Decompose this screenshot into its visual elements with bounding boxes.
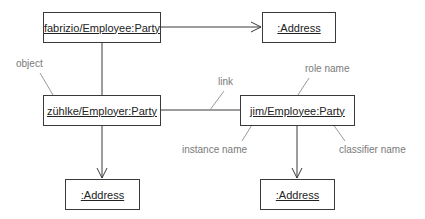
object-label: zühlke/Employer:Party xyxy=(47,105,157,117)
object-label: :Address xyxy=(277,22,320,34)
object-jim[interactable]: jim/Employee:Party xyxy=(240,95,355,126)
object-fabrizio[interactable]: fabrizio/Employee:Party xyxy=(43,12,161,43)
annotation-instance-name: instance name xyxy=(182,144,247,155)
annotation-link: link xyxy=(218,76,233,87)
object-zuhlke[interactable]: zühlke/Employer:Party xyxy=(43,95,161,126)
object-label: :Address xyxy=(276,189,319,201)
annotation-role-name: role name xyxy=(305,63,349,74)
annotation-classifier-name: classifier name xyxy=(339,144,406,155)
object-address-right[interactable]: :Address xyxy=(260,179,335,210)
annotation-object: object xyxy=(16,58,43,69)
object-address-top[interactable]: :Address xyxy=(262,12,336,43)
object-address-left[interactable]: :Address xyxy=(65,179,140,210)
object-label: :Address xyxy=(81,189,124,201)
object-label: fabrizio/Employee:Party xyxy=(44,22,160,34)
object-label: jim/Employee:Party xyxy=(250,105,345,117)
